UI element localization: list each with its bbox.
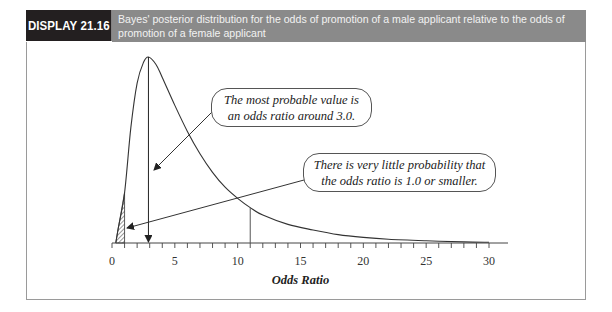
- x-axis-title: Odds Ratio: [272, 273, 329, 287]
- callout-low-line2: the odds ratio is 1.0 or smaller.: [304, 173, 495, 189]
- x-tick-label: 30: [483, 254, 495, 268]
- x-tick-label: 25: [420, 254, 432, 268]
- callout-mode-arrow: [154, 112, 212, 170]
- posterior-chart: 051015202530Odds Ratio: [0, 0, 612, 312]
- callout-low-probability: There is very little probability that th…: [303, 153, 496, 192]
- x-tick-label: 20: [357, 254, 369, 268]
- x-tick-label: 10: [232, 254, 244, 268]
- callout-low-line1: There is very little probability that: [304, 157, 495, 173]
- x-tick-label: 5: [172, 254, 178, 268]
- callout-mode-line2: an odds ratio around 3.0.: [212, 108, 371, 124]
- x-tick-label: 15: [295, 254, 307, 268]
- callout-mode-line1: The most probable value is: [212, 92, 371, 108]
- x-tick-label: 0: [109, 254, 115, 268]
- callout-mode: The most probable value is an odds ratio…: [211, 88, 372, 127]
- density-curve: [116, 57, 489, 243]
